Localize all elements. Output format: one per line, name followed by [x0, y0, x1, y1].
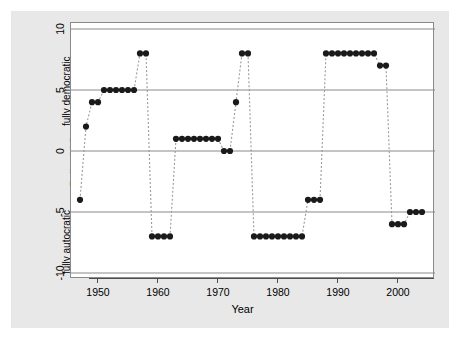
- data-point: [221, 148, 227, 154]
- data-point: [329, 50, 335, 56]
- x-tick-label-1960: 1960: [137, 286, 179, 298]
- y-tick-label-0: 0: [54, 139, 66, 163]
- data-point: [245, 50, 251, 56]
- x-axis-title: Year: [70, 303, 415, 315]
- y-tick-label-m10: -10: [54, 261, 66, 285]
- x-tick-label-1990: 1990: [317, 286, 359, 298]
- data-point: [371, 50, 377, 56]
- y-tick-label-m5: -5: [54, 200, 66, 224]
- data-point: [287, 233, 293, 239]
- figure-region: Polity IV Score fully democratic fully a…: [11, 11, 449, 328]
- series-dashed-line: [80, 53, 422, 236]
- data-point: [89, 99, 95, 105]
- data-point: [323, 50, 329, 56]
- data-point: [173, 136, 179, 142]
- data-point: [95, 99, 101, 105]
- data-point: [227, 148, 233, 154]
- data-point: [233, 99, 239, 105]
- y-tick-label-10: 10: [54, 17, 66, 41]
- data-point: [383, 63, 389, 69]
- data-point: [179, 136, 185, 142]
- data-point: [185, 136, 191, 142]
- data-point: [401, 221, 407, 227]
- plot-panel: [70, 22, 434, 278]
- data-point: [389, 221, 395, 227]
- data-point: [305, 197, 311, 203]
- data-point: [353, 50, 359, 56]
- data-point: [203, 136, 209, 142]
- data-point: [281, 233, 287, 239]
- x-tick-label-1950: 1950: [77, 286, 119, 298]
- data-point: [251, 233, 257, 239]
- data-point: [131, 87, 137, 93]
- data-point: [359, 50, 365, 56]
- data-point: [161, 233, 167, 239]
- data-point: [311, 197, 317, 203]
- data-point: [119, 87, 125, 93]
- data-point: [377, 63, 383, 69]
- x-tick-label-1970: 1970: [197, 286, 239, 298]
- data-point: [335, 50, 341, 56]
- data-point: [197, 136, 203, 142]
- data-point: [395, 221, 401, 227]
- data-point: [407, 209, 413, 215]
- data-point: [239, 50, 245, 56]
- data-point: [269, 233, 275, 239]
- data-point: [347, 50, 353, 56]
- x-tick-label-1980: 1980: [257, 286, 299, 298]
- data-point: [275, 233, 281, 239]
- x-tick-label-2000: 2000: [377, 286, 419, 298]
- plot-canvas: [71, 23, 435, 279]
- data-point: [209, 136, 215, 142]
- data-point: [167, 233, 173, 239]
- data-point: [125, 87, 131, 93]
- data-point: [413, 209, 419, 215]
- data-point: [215, 136, 221, 142]
- data-point: [107, 87, 113, 93]
- data-point: [143, 50, 149, 56]
- data-point: [155, 233, 161, 239]
- y-tick-label-5: 5: [54, 78, 66, 102]
- data-point: [299, 233, 305, 239]
- data-point: [341, 50, 347, 56]
- data-point: [83, 124, 89, 130]
- data-point: [149, 233, 155, 239]
- data-point: [293, 233, 299, 239]
- data-point: [365, 50, 371, 56]
- data-point: [77, 197, 83, 203]
- data-point: [191, 136, 197, 142]
- chart-screenshot: Polity IV Score fully democratic fully a…: [0, 0, 460, 339]
- data-point: [419, 209, 425, 215]
- data-point: [263, 233, 269, 239]
- data-point: [317, 197, 323, 203]
- data-point: [137, 50, 143, 56]
- data-point: [113, 87, 119, 93]
- data-point: [101, 87, 107, 93]
- data-point: [257, 233, 263, 239]
